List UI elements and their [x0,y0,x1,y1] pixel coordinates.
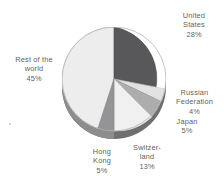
stray-speck [9,123,11,125]
pie-label-hong-kong: Hong Kong 5% [82,147,122,175]
pie-label-rest-of-the-world: Rest of the world 45% [3,55,65,83]
pie-label-switzerland: Switzer- land 13% [124,143,170,171]
pie-chart-figure: United States 28% Russian Federation 4% … [0,0,224,186]
pie-label-japan: Japan 5% [163,117,211,136]
pie-label-russian-federation: Russian Federation 4% [166,88,223,116]
pie-chart-graphic [62,27,166,139]
pie-label-united-states: United States 28% [168,11,220,39]
pie-svg [62,27,166,139]
